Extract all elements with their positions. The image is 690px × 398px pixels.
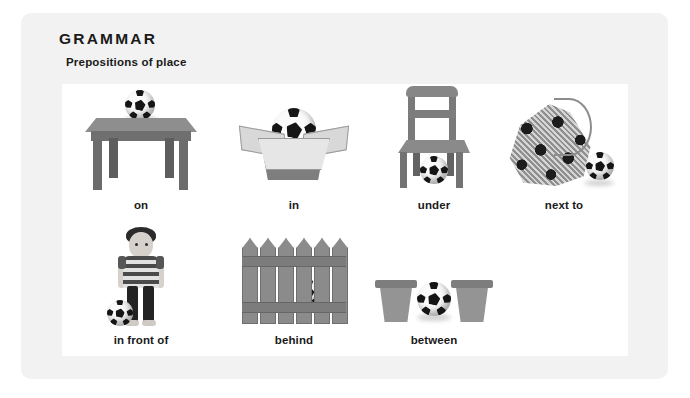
- preposition-item-behind: behind: [220, 224, 368, 356]
- preposition-caption: in: [220, 199, 368, 211]
- ball-in-front-of-boy-icon: [62, 224, 220, 328]
- ball-on-table-icon: [62, 86, 220, 190]
- page-subtitle: Prepositions of place: [66, 56, 187, 68]
- preposition-item-in: in: [220, 86, 368, 221]
- preposition-item-between: between: [368, 224, 500, 356]
- preposition-caption: under: [368, 199, 500, 211]
- ball-in-box-icon: [220, 86, 368, 190]
- preposition-caption: in front of: [62, 334, 220, 346]
- preposition-caption: between: [368, 334, 500, 346]
- preposition-item-under: under: [368, 86, 500, 221]
- page-title: GRAMMAR: [59, 30, 157, 48]
- preposition-item-in-front-of: in front of: [62, 224, 220, 356]
- ball-under-chair-icon: [368, 86, 500, 190]
- preposition-item-on: on: [62, 86, 220, 221]
- ball-between-pots-icon: [368, 224, 500, 328]
- worksheet-page: GRAMMAR Prepositions of place: [0, 0, 690, 398]
- ball-next-to-bag-icon: [500, 86, 628, 190]
- preposition-item-next-to: next to: [500, 86, 628, 221]
- preposition-caption: behind: [220, 334, 368, 346]
- preposition-row-2: in front of: [62, 224, 628, 356]
- preposition-row-1: on: [62, 86, 628, 221]
- preposition-caption: on: [62, 199, 220, 211]
- preposition-caption: next to: [500, 199, 628, 211]
- ball-behind-fence-icon: [220, 224, 368, 328]
- grammar-panel: GRAMMAR Prepositions of place: [21, 13, 668, 379]
- illustration-card: on: [62, 84, 628, 356]
